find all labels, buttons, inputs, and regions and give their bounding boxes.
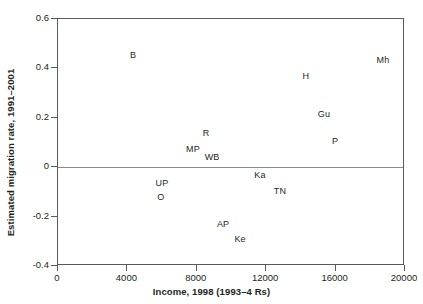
data-point-label: Mh [377, 56, 390, 65]
y-axis-tick-label: 0.2 [36, 112, 49, 122]
data-point-label: WB [205, 152, 220, 161]
y-axis-tick-label: 0 [44, 161, 49, 171]
x-axis-tick-label: 12000 [252, 273, 278, 283]
data-point-label: P [332, 137, 338, 146]
x-axis-tick [404, 265, 405, 271]
data-point-label: Gu [318, 110, 330, 119]
data-point-label: Ka [254, 171, 265, 180]
x-axis-tick [126, 265, 127, 271]
plot-area: BMhHGuRPMPWBKaUPTNOAPKe [57, 18, 404, 265]
x-axis-tick-label: 0 [54, 273, 59, 283]
x-axis-title-text: Income, 1998 (1993–4 Rs) [153, 286, 271, 297]
x-axis-tick-label: 20000 [391, 273, 417, 283]
data-point-label: AP [217, 220, 229, 229]
data-point-label: UP [156, 179, 169, 188]
zero-reference-line [58, 167, 403, 168]
y-axis-tick-label: 0.6 [36, 13, 49, 23]
y-axis-tick-label: -0.2 [33, 211, 49, 221]
scatter-chart-figure: Estimated migration rate, 1991–2001 -0.4… [0, 0, 423, 304]
data-point-label: MP [186, 144, 200, 153]
data-point-label: H [303, 72, 310, 81]
y-axis-title-text: Estimated migration rate, 1991–2001 [6, 68, 17, 236]
data-point-label: Ke [234, 235, 245, 244]
y-axis-title: Estimated migration rate, 1991–2001 [2, 0, 20, 304]
data-point-label: O [157, 193, 164, 202]
x-axis-tick [196, 265, 197, 271]
x-axis-tick-label: 4000 [116, 273, 137, 283]
x-axis-tick-label: 8000 [185, 273, 206, 283]
y-axis-tick-label: -0.4 [33, 260, 49, 270]
data-point-label: TN [274, 187, 286, 196]
x-axis-tick [265, 265, 266, 271]
x-axis-tick-label: 16000 [321, 273, 347, 283]
data-point-label: B [130, 50, 136, 59]
x-axis-tick [335, 265, 336, 271]
data-point-label: R [203, 128, 210, 137]
y-axis-tick-label: 0.4 [36, 63, 49, 73]
x-axis-tick [57, 265, 58, 271]
x-axis-title: Income, 1998 (1993–4 Rs) [0, 286, 423, 297]
